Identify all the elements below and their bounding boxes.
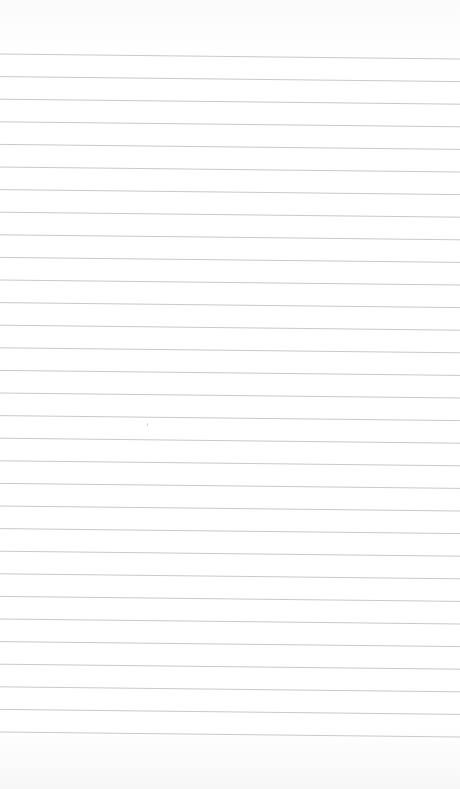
ruled-line	[0, 144, 460, 149]
ruled-line	[0, 54, 460, 59]
ruled-line	[0, 732, 460, 737]
lined-paper-page	[0, 0, 460, 789]
ruled-line	[0, 438, 460, 443]
ruled-line	[0, 370, 460, 375]
ruled-line	[0, 280, 460, 285]
ruled-line	[0, 122, 460, 127]
ruled-line	[0, 393, 460, 398]
ruled-line	[0, 529, 460, 534]
ruled-line	[0, 461, 460, 466]
ruled-line	[0, 483, 460, 488]
ruled-line	[0, 709, 460, 714]
paper-speck	[147, 423, 148, 426]
ruled-line	[0, 506, 460, 511]
ruled-line	[0, 167, 460, 172]
ruled-line	[0, 574, 460, 579]
ruled-line	[0, 99, 460, 104]
ruled-line	[0, 325, 460, 330]
ruled-line	[0, 619, 460, 624]
ruled-line	[0, 212, 460, 217]
ruled-line	[0, 77, 460, 82]
ruled-line	[0, 257, 460, 262]
ruled-line	[0, 190, 460, 195]
ruled-line	[0, 596, 460, 601]
ruled-line	[0, 687, 460, 692]
ruled-line	[0, 348, 460, 353]
ruled-line	[0, 642, 460, 647]
ruled-line	[0, 235, 460, 240]
ruled-line	[0, 303, 460, 308]
ruled-line	[0, 664, 460, 669]
ruled-line	[0, 551, 460, 556]
ruled-lines	[0, 0, 460, 789]
ruled-line	[0, 416, 460, 421]
